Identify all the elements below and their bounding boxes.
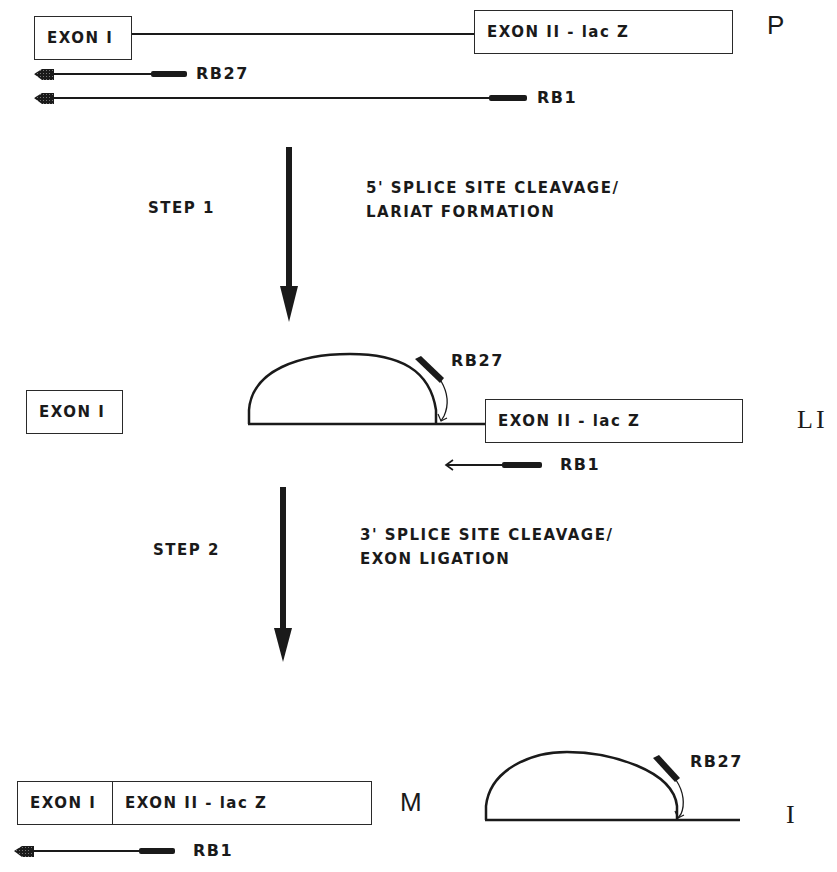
precursor-exon2-label: EXON II - lac Z: [487, 23, 629, 41]
rb1-probe-mature-icon: [14, 846, 175, 857]
step2-description-line2: EXON LIGATION: [360, 550, 510, 568]
precursor-rb1-label: RB1: [537, 88, 577, 107]
rb1-probe-precursor-icon: [34, 93, 527, 104]
precursor-rb27-label: RB27: [196, 64, 249, 83]
li-exon2-label: EXON II - lac Z: [498, 412, 640, 430]
precursor-exon1-label: EXON I: [47, 29, 113, 47]
step1-label: STEP 1: [148, 199, 215, 217]
li-free-exon1-box: EXON I: [26, 390, 123, 434]
step1-description-line2: LARIAT FORMATION: [366, 203, 555, 221]
mature-exon1-box: EXON I: [17, 781, 114, 825]
li-rb27-label: RB27: [451, 351, 504, 370]
mature-exon2-box: EXON II - lac Z: [112, 781, 372, 825]
step2-arrow-icon: [274, 487, 292, 662]
precursor-exon2-box: EXON II - lac Z: [474, 10, 733, 54]
mature-rb1-label: RB1: [193, 841, 233, 860]
step1-arrow-icon: [280, 147, 298, 322]
mature-exon2-label: EXON II - lac Z: [125, 794, 267, 812]
rb1-probe-lariat-intermediate-icon: [446, 460, 542, 470]
rb27-probe-lariat-icon: [415, 356, 447, 421]
step2-label: STEP 2: [153, 541, 220, 559]
precursor-state-label: P: [767, 10, 784, 41]
step2-description-line1: 3' SPLICE SITE CLEAVAGE/: [360, 526, 613, 544]
rb27-probe-precursor-icon: [34, 69, 187, 80]
intron-rb27-label: RB27: [690, 752, 743, 771]
mature-exon1-label: EXON I: [30, 794, 96, 812]
intron-state-label: I: [786, 800, 795, 830]
precursor-exon1-box: EXON I: [34, 16, 132, 60]
li-exon2-box: EXON II - lac Z: [485, 399, 743, 443]
mature-state-label: M: [400, 787, 422, 818]
li-state-label: LI: [797, 405, 828, 435]
step1-description-line1: 5' SPLICE SITE CLEAVAGE/: [366, 179, 619, 197]
li-rb1-label: RB1: [560, 455, 600, 474]
li-free-exon1-label: EXON I: [39, 403, 105, 421]
